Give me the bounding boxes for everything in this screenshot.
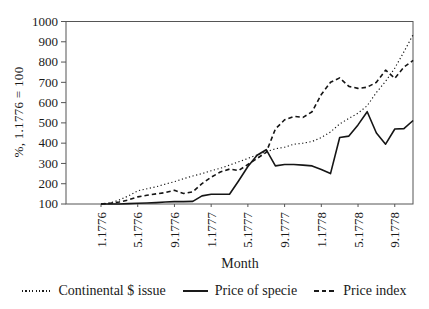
legend-item: Price index [314,283,406,299]
y-tick-label: 300 [39,156,59,171]
x-tick-label: 9.1778 [387,212,402,248]
legend-swatch-dashed [314,290,336,292]
series-line-dotted [101,35,413,204]
plot-area: 10020030040050060070080090010001.17765.1… [0,0,429,309]
legend: Continental $ issuePrice of speciePrice … [0,283,429,299]
legend-label: Price of specie [215,283,297,299]
x-axis-title: Month [221,256,258,272]
legend-label: Continental $ issue [58,283,165,299]
x-tick-label: 9.1777 [277,212,292,248]
x-tick-label: 1.1776 [94,212,109,248]
y-tick-label: 700 [39,75,59,90]
y-tick-label: 200 [39,176,59,191]
legend-item: Continental $ issue [22,283,165,299]
currency-depreciation-chart: 10020030040050060070080090010001.17765.1… [0,0,429,309]
series-line-solid [101,112,413,204]
x-tick-label: 5.1776 [130,212,145,248]
y-tick-label: 600 [39,95,59,110]
plot-frame [66,22,413,205]
y-tick-label: 900 [39,34,59,49]
legend-label: Price index [343,283,406,299]
y-tick-label: 100 [39,196,59,211]
x-tick-label: 1.1777 [204,212,219,248]
x-tick-label: 5.1777 [240,212,255,248]
x-tick-label: 9.1776 [167,212,182,248]
x-tick-label: 1.1778 [314,212,329,248]
x-tick-label: 5.1778 [351,212,366,248]
y-tick-label: 500 [39,115,59,130]
y-tick-label: 400 [39,135,59,150]
legend-swatch-solid [183,290,208,292]
y-axis-title: %, 1.1776 = 100 [11,67,27,158]
y-tick-label: 800 [39,54,59,69]
y-tick-label: 1000 [32,14,58,29]
series-line-dashed [101,60,413,204]
legend-item: Price of specie [183,283,297,299]
legend-swatch-dotted [22,290,51,292]
